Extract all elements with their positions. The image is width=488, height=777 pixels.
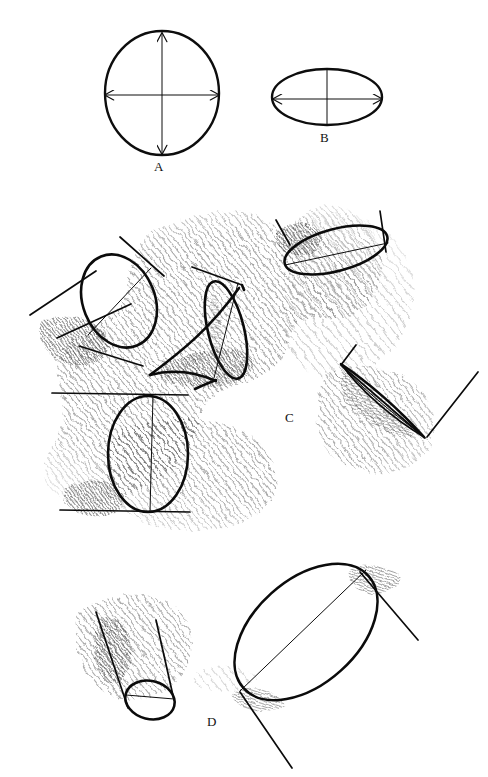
figure-c-group — [30, 204, 478, 531]
plate-artwork — [0, 0, 488, 777]
c1-ground-line-left — [30, 271, 96, 315]
d-ellipse-right — [193, 537, 418, 768]
figure-b-label: B — [320, 131, 329, 144]
figure-d-group — [76, 537, 418, 768]
figure-b-ellipse — [272, 69, 382, 125]
d2-ellipse-major-axis — [240, 570, 366, 691]
d-cylinder-left — [76, 595, 192, 725]
illustration-plate: A B C D — [0, 0, 488, 777]
figure-a-circle — [105, 31, 219, 155]
figure-c-label: C — [285, 411, 294, 424]
c2-corner-top — [242, 285, 244, 290]
figure-a-label: A — [154, 160, 164, 173]
c5-ground-line-right — [427, 372, 478, 437]
figure-d-label: D — [207, 715, 217, 728]
ground-hatch-lower-left — [105, 418, 276, 531]
